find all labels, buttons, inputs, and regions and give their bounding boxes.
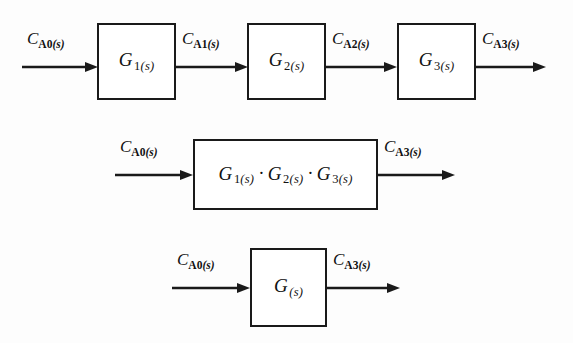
signal-ca3-mid-s: (s): [409, 146, 421, 158]
block-product-g2-s: (s): [290, 172, 304, 186]
block-g1[interactable]: G1(s): [97, 23, 176, 100]
block-diagram-canvas: CA0(s) G1(s) CA1(s) G2(s) CA2(s) G3(s): [0, 0, 573, 343]
signal-ca0-bottom-s: (s): [202, 259, 214, 271]
signal-label-ca0-top: CA0(s): [27, 30, 65, 50]
block-g3[interactable]: G3(s): [397, 23, 476, 100]
arrow-output-ca3-bottom: [327, 281, 400, 295]
signal-ca3-mid-main: C: [384, 137, 395, 156]
signal-label-ca2: CA2(s): [332, 30, 370, 50]
block-g-equivalent-main: G: [274, 275, 288, 296]
signal-ca0-mid-main: C: [120, 137, 131, 156]
block-g-equivalent-label: G(s): [274, 275, 303, 300]
signal-label-ca0-mid: CA0(s): [120, 138, 158, 158]
block-g1-main: G: [119, 49, 133, 70]
signal-ca1-s: (s): [207, 38, 219, 50]
block-g2-main: G: [269, 49, 283, 70]
signal-ca3-mid-sub: A3: [395, 146, 409, 158]
multiply-dot-1: ·: [254, 162, 268, 183]
block-g1-s: (s): [141, 59, 155, 73]
arrow-input-ca0-top: [22, 60, 98, 74]
multiply-dot-2: ·: [303, 162, 317, 183]
signal-label-ca0-bottom: CA0(s): [177, 251, 215, 271]
signal-ca0-mid-s: (s): [145, 146, 157, 158]
signal-ca0-mid-sub: A0: [131, 146, 145, 158]
block-product-g3: G: [317, 162, 331, 183]
block-g2-s: (s): [291, 59, 305, 73]
block-g2[interactable]: G2(s): [247, 23, 326, 100]
signal-ca1-main: C: [182, 29, 193, 48]
block-product[interactable]: G1(s)·G2(s)·G3(s): [193, 139, 378, 210]
block-g3-label: G3(s): [419, 49, 455, 74]
signal-ca1-sub: A1: [193, 38, 207, 50]
block-product-g3-s: (s): [339, 172, 353, 186]
block-g-equivalent-s: (s): [289, 285, 303, 299]
arrow-ca2: [326, 60, 397, 74]
signal-ca0-top-s: (s): [52, 38, 64, 50]
signal-ca2-s: (s): [357, 38, 369, 50]
signal-ca3-top-main: C: [482, 29, 493, 48]
signal-ca0-top-main: C: [27, 29, 38, 48]
signal-ca3-bottom-sub: A3: [344, 259, 358, 271]
signal-ca2-sub: A2: [343, 38, 357, 50]
block-g2-label: G2(s): [269, 49, 305, 74]
block-product-g1-s: (s): [240, 172, 254, 186]
arrow-output-ca3-top: [476, 60, 546, 74]
block-g-equivalent[interactable]: G(s): [250, 248, 327, 327]
block-g3-main: G: [419, 49, 433, 70]
block-g1-label: G1(s): [119, 49, 155, 74]
block-product-g2: G: [268, 162, 282, 183]
signal-label-ca3-mid: CA3(s): [384, 138, 422, 158]
signal-ca2-main: C: [332, 29, 343, 48]
signal-ca3-bottom-main: C: [333, 250, 344, 269]
signal-label-ca3-top: CA3(s): [482, 30, 520, 50]
block-product-label: G1(s)·G2(s)·G3(s): [218, 162, 352, 188]
signal-label-ca3-bottom: CA3(s): [333, 251, 371, 271]
signal-ca3-top-s: (s): [507, 38, 519, 50]
signal-label-ca1: CA1(s): [182, 30, 220, 50]
signal-ca0-bottom-main: C: [177, 250, 188, 269]
signal-ca3-top-sub: A3: [493, 38, 507, 50]
signal-ca0-bottom-sub: A0: [188, 259, 202, 271]
arrow-input-ca0-bottom: [172, 281, 250, 295]
block-product-g1: G: [218, 162, 232, 183]
signal-ca0-top-sub: A0: [38, 38, 52, 50]
signal-ca3-bottom-s: (s): [358, 259, 370, 271]
arrow-ca1: [176, 60, 248, 74]
block-g3-s: (s): [441, 59, 455, 73]
arrow-input-ca0-mid: [115, 168, 193, 182]
arrow-output-ca3-mid: [378, 168, 455, 182]
